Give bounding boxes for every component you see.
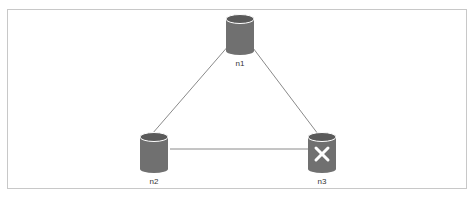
node-n1[interactable]: n1 xyxy=(226,15,254,69)
edge-n1-n2 xyxy=(152,44,230,134)
database-icon xyxy=(226,15,254,56)
node-label-n2: n2 xyxy=(150,177,159,186)
node-label-n1: n1 xyxy=(236,59,245,68)
node-n3[interactable]: n3 xyxy=(308,133,336,187)
database-icon xyxy=(140,133,168,174)
topology-diagram: n1 n2 n3 xyxy=(0,0,475,201)
node-n2[interactable]: n2 xyxy=(140,133,168,187)
edge-n1-n3 xyxy=(250,44,318,134)
node-label-n3: n3 xyxy=(318,177,327,186)
